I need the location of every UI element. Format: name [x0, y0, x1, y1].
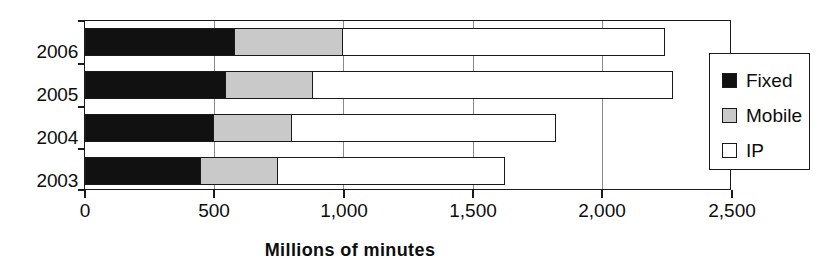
black-square-icon	[722, 73, 737, 88]
bar-segment-ip	[342, 28, 665, 56]
x-tick-label-500: 500	[198, 200, 230, 222]
legend-item-mobile: Mobile	[722, 98, 809, 133]
x-axis-title: Millions of minutes	[0, 240, 700, 261]
gray-square-icon	[722, 108, 737, 123]
x-tick-mark	[601, 190, 603, 198]
bar-segment-fixed	[85, 71, 226, 99]
x-tick-mark	[731, 190, 733, 198]
bar-row-2005	[85, 71, 673, 99]
x-tick-mark	[213, 190, 215, 198]
plot-area	[84, 20, 731, 190]
x-tick-label-0: 0	[80, 200, 91, 222]
white-square-icon	[722, 143, 737, 158]
x-tick-label-2500: 2,500	[708, 200, 756, 222]
legend-label-mobile: Mobile	[746, 106, 802, 125]
x-tick-label-1000: 1,000	[320, 200, 368, 222]
y-tick-label-2005: 2005	[4, 85, 78, 104]
y-axis: 2006 2005 2004 2003	[0, 20, 78, 190]
bar-segment-ip	[312, 71, 673, 99]
bar-segment-ip	[277, 157, 505, 185]
bar-segment-fixed	[85, 114, 214, 142]
bar-row-2004	[85, 114, 556, 142]
y-tick-label-2003: 2003	[4, 171, 78, 190]
x-tick-label-2000: 2,000	[578, 200, 626, 222]
x-tick-mark	[84, 190, 86, 198]
x-tick-label-1500: 1,500	[449, 200, 497, 222]
bar-segment-mobile	[200, 157, 278, 185]
bar-segment-mobile	[225, 71, 313, 99]
y-tick-label-2006: 2006	[4, 42, 78, 61]
bar-row-2003	[85, 157, 505, 185]
legend-label-ip: IP	[746, 141, 764, 160]
bar-segment-mobile	[213, 114, 292, 142]
bar-segment-mobile	[234, 28, 343, 56]
y-tick-label-2004: 2004	[4, 128, 78, 147]
bar-segment-ip	[291, 114, 556, 142]
x-tick-mark	[472, 190, 474, 198]
legend: Fixed Mobile IP	[709, 53, 810, 170]
bar-row-2006	[85, 28, 665, 56]
bar-segment-fixed	[85, 28, 235, 56]
x-tick-mark	[343, 190, 345, 198]
bar-segment-fixed	[85, 157, 201, 185]
legend-label-fixed: Fixed	[746, 71, 792, 90]
legend-item-fixed: Fixed	[722, 63, 809, 98]
stacked-bar-chart: 2006 2005 2004 2003	[0, 0, 836, 277]
x-axis: 0 500 1,000 1,500 2,000 2,500	[0, 190, 836, 230]
legend-item-ip: IP	[722, 133, 809, 168]
